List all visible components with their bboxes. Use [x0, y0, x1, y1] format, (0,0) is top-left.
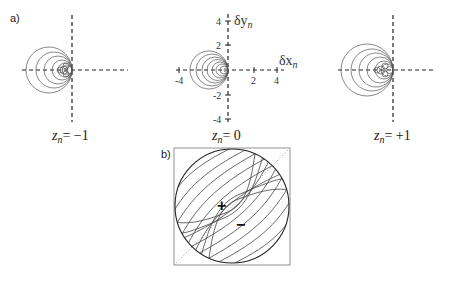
- y-tick-label: -4: [213, 114, 221, 125]
- x-tick-label: 4: [274, 75, 279, 86]
- z-label-center: zn= 0: [211, 128, 241, 145]
- panel-a-label: a): [10, 12, 20, 24]
- panel-b-label: b): [161, 148, 171, 160]
- plus-sign: +: [217, 197, 226, 214]
- x-axis-label: δxn: [279, 53, 298, 70]
- subplot-left: zn= −1: [22, 15, 128, 145]
- subplot-right: zn= +1: [338, 15, 434, 145]
- x-tick-label: 2: [251, 75, 256, 86]
- minus-sign: −: [236, 216, 245, 233]
- panel-b-plot: + −: [164, 137, 300, 275]
- x-tick-label: -4: [175, 75, 183, 86]
- y-tick-label: 4: [216, 16, 221, 27]
- z-label-right: zn= +1: [373, 128, 411, 145]
- circle-family: [190, 51, 228, 89]
- figure-canvas: a) zn= −1: [0, 0, 449, 284]
- y-tick-label: -2: [213, 90, 221, 101]
- y-tick-label: 2: [216, 40, 221, 51]
- y-axis-label: δyn: [234, 13, 253, 30]
- contour-lines: [164, 137, 300, 275]
- z-label-left: zn= −1: [51, 128, 89, 145]
- subplot-center: -4 2 4 4 2 -2 -4 δyn δxn zn= 0: [175, 13, 298, 145]
